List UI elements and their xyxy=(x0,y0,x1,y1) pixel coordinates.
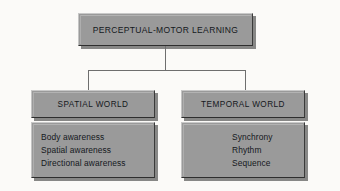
node-temporal-world-header[interactable]: TEMPORAL WORLD xyxy=(181,90,305,118)
connector-root-stem xyxy=(165,46,166,70)
connector-left-drop xyxy=(88,70,89,90)
node-spatial-world-label: SPATIAL WORLD xyxy=(58,100,129,109)
list-item: Synchrony xyxy=(232,131,304,144)
node-temporal-world-label: TEMPORAL WORLD xyxy=(201,100,285,109)
connector-right-drop xyxy=(245,70,246,90)
node-root-label: PERCEPTUAL-MOTOR LEARNING xyxy=(93,25,239,35)
node-perceptual-motor-learning[interactable]: PERCEPTUAL-MOTOR LEARNING xyxy=(78,13,253,46)
connector-horizontal-bus xyxy=(88,70,246,71)
node-spatial-world-header[interactable]: SPATIAL WORLD xyxy=(31,90,155,118)
diagram-canvas: PERCEPTUAL-MOTOR LEARNING SPATIAL WORLD … xyxy=(0,0,340,191)
list-item: Spatial awareness xyxy=(41,144,154,157)
temporal-world-list: Synchrony Rhythm Sequence xyxy=(182,131,304,170)
list-item: Directional awareness xyxy=(41,157,154,170)
list-item: Body awareness xyxy=(41,131,154,144)
node-spatial-world-items: Body awareness Spatial awareness Directi… xyxy=(31,122,155,178)
list-item: Sequence xyxy=(232,157,304,170)
node-temporal-world-items: Synchrony Rhythm Sequence xyxy=(181,122,305,178)
spatial-world-list: Body awareness Spatial awareness Directi… xyxy=(32,131,154,170)
list-item: Rhythm xyxy=(232,144,304,157)
